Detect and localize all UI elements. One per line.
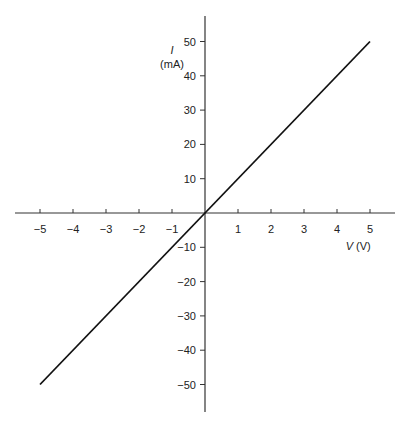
x-tick-label: 4 xyxy=(334,223,340,235)
y-tick-label: 20 xyxy=(184,138,196,150)
y-tick-label: −10 xyxy=(177,241,196,253)
y-tick-label: −40 xyxy=(177,344,196,356)
y-tick-label: −50 xyxy=(177,379,196,391)
iv-chart: −5−4−3−2−1123455040302010−10−20−30−40−50… xyxy=(0,0,407,428)
x-tick-label: −3 xyxy=(100,223,113,235)
y-tick-label: 40 xyxy=(184,70,196,82)
x-tick-label: −1 xyxy=(166,223,179,235)
y-tick-label: −20 xyxy=(177,276,196,288)
x-tick-label: 1 xyxy=(235,223,241,235)
y-tick-label: 50 xyxy=(184,36,196,48)
y-tick-label: −30 xyxy=(177,310,196,322)
x-axis-unit: (V) xyxy=(356,240,371,252)
x-tick-label: 5 xyxy=(367,223,373,235)
x-tick-label: −5 xyxy=(34,223,47,235)
y-axis-unit: (mA) xyxy=(160,58,184,70)
x-axis-var: V xyxy=(346,240,355,252)
x-tick-label: −4 xyxy=(67,223,80,235)
y-axis-var: I xyxy=(170,44,173,56)
x-tick-label: 2 xyxy=(268,223,274,235)
y-tick-label: 30 xyxy=(184,104,196,116)
y-tick-label: 10 xyxy=(184,173,196,185)
x-tick-label: 3 xyxy=(301,223,307,235)
x-tick-label: −2 xyxy=(133,223,146,235)
